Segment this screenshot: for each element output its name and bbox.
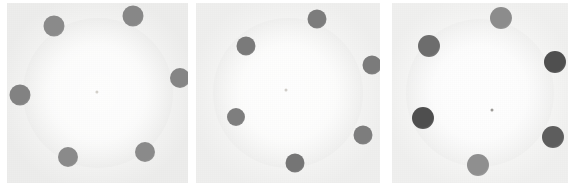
diffraction-spot-4: [58, 147, 78, 167]
direct-beam-center-dot: [285, 89, 288, 92]
panel-3: [392, 3, 568, 183]
direct-beam-center-dot: [95, 90, 98, 93]
diffraction-figure: [0, 0, 574, 186]
diffraction-spot-2: [44, 16, 65, 37]
diffraction-spot-6: [363, 56, 381, 75]
diffraction-spot-4: [467, 154, 489, 176]
direct-beam-center-dot: [491, 109, 494, 112]
diffraction-spot-5: [542, 126, 564, 148]
diffraction-spot-1: [123, 6, 144, 27]
diffraction-spot-6: [170, 68, 188, 88]
diffraction-spot-3: [227, 108, 245, 126]
diffraction-spot-2: [418, 35, 440, 57]
diffraction-spot-3: [412, 107, 434, 129]
diffraction-spot-1: [490, 7, 512, 29]
diffraction-spot-5: [354, 126, 373, 145]
panel-2: [196, 3, 380, 183]
diffraction-spot-4: [286, 154, 305, 173]
diffraction-spot-3: [10, 85, 31, 106]
diffuse-halo: [213, 18, 363, 168]
panel-1: [7, 3, 188, 183]
diffraction-spot-6: [544, 51, 566, 73]
diffraction-spot-2: [237, 37, 256, 56]
diffraction-spot-1: [308, 10, 327, 29]
diffraction-spot-5: [135, 142, 155, 162]
